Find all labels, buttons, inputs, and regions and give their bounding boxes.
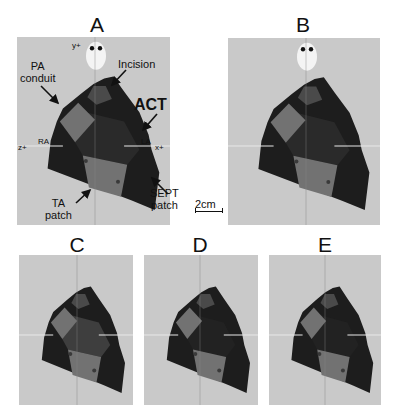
panel-e-image — [269, 255, 381, 405]
la-label: LA — [141, 137, 151, 146]
sept-patch-label: SEPT patch — [150, 187, 179, 211]
pa-conduit-label-line2: conduit — [20, 72, 55, 84]
panel-label-d: D — [192, 234, 207, 255]
z-axis-label: z+ — [18, 143, 27, 152]
ta-patch-label-line1: TA — [45, 197, 72, 209]
act-label: ACT — [134, 99, 167, 111]
y-axis-label: y+ — [72, 41, 81, 50]
pa-conduit-label: PA conduit — [20, 60, 55, 84]
x-axis-label: x+ — [155, 143, 164, 152]
scale-bar-line — [196, 211, 222, 212]
panel-c-image — [19, 255, 133, 405]
pa-conduit-label-line1: PA — [20, 60, 55, 72]
panel-b-image — [228, 38, 380, 225]
panel-label-b: B — [296, 14, 310, 35]
sept-patch-label-line1: SEPT — [150, 187, 179, 199]
panel-label-a: A — [90, 14, 104, 35]
ta-patch-label-line2: patch — [45, 209, 72, 221]
panel-label-e: E — [318, 234, 332, 255]
ta-patch-label: TA patch — [45, 197, 72, 221]
scale-bar: 2cm — [195, 199, 225, 215]
panel-label-c: C — [69, 234, 84, 255]
incision-label: Incision — [118, 58, 155, 70]
ra-label: RA — [38, 137, 49, 146]
scale-bar-label: 2cm — [195, 199, 216, 210]
panel-d-image — [144, 255, 258, 405]
sept-patch-label-line2: patch — [150, 199, 179, 211]
